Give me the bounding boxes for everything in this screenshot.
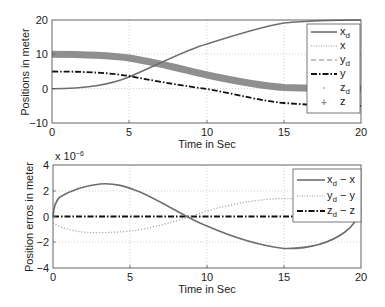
bottom-xtick-15: 15 [278, 271, 290, 283]
bottom-ytick-neg2: −2 [36, 236, 49, 248]
bottom-xtick-10: 10 [201, 271, 213, 283]
bottom-ytick-0: 0 [43, 211, 49, 223]
top-ytick-10: 10 [36, 48, 48, 60]
svg-text:+: + [321, 97, 327, 108]
figure: 20 10 0 −10 0 5 10 15 20 Time in Sec Pos… [0, 0, 385, 307]
bottom-xtick-20: 20 [355, 271, 367, 283]
bottom-plot: x 10−6 4 2 0 −2 −4 0 5 10 15 20 Time in … [23, 150, 367, 295]
legend-y: y [340, 67, 346, 79]
top-xtick-5: 5 [126, 126, 132, 138]
top-xlabel: Time in Sec [178, 138, 236, 150]
bottom-xtick-0: 0 [50, 271, 56, 283]
top-xtick-15: 15 [278, 126, 290, 138]
legend-x: x [340, 39, 346, 51]
top-xtick-0: 0 [49, 126, 55, 138]
top-xtick-20: 20 [355, 126, 367, 138]
top-ytick-neg10: −10 [29, 117, 48, 129]
bottom-ytick-4: 4 [43, 159, 49, 171]
legend-z: z [340, 95, 346, 107]
bottom-scale-label: x 10−6 [55, 150, 84, 162]
top-ylabel: Positions in meter [19, 28, 31, 116]
top-xtick-10: 10 [201, 126, 213, 138]
bottom-legend: xd − x yd − y zd − z [293, 169, 361, 222]
bottom-ytick-neg4: −4 [36, 262, 49, 274]
bottom-xlabel: Time in Sec [178, 283, 236, 295]
top-plot: 20 10 0 −10 0 5 10 15 20 Time in Sec Pos… [19, 14, 367, 150]
bottom-tick-marks [53, 191, 284, 268]
top-legend: + xd x yd y zd z [307, 24, 360, 113]
bottom-xtick-5: 5 [127, 271, 133, 283]
bottom-ytick-2: 2 [43, 185, 49, 197]
top-ytick-20: 20 [36, 14, 48, 26]
top-ytick-0: 0 [42, 83, 48, 95]
bottom-ylabel: Position erros in meter [23, 162, 35, 272]
